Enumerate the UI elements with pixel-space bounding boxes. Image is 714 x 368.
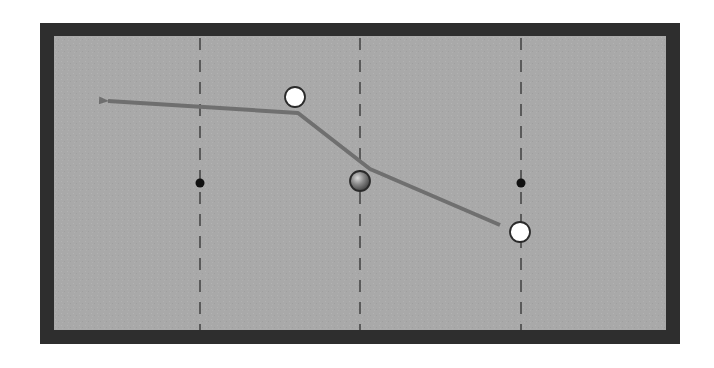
spot-2	[517, 179, 526, 188]
white-ball-top	[285, 87, 305, 107]
spot-1	[196, 179, 205, 188]
table-canvas	[0, 0, 714, 368]
billiards-diagram	[0, 0, 714, 368]
object-ball-center	[350, 171, 370, 191]
white-ball-right	[510, 222, 530, 242]
